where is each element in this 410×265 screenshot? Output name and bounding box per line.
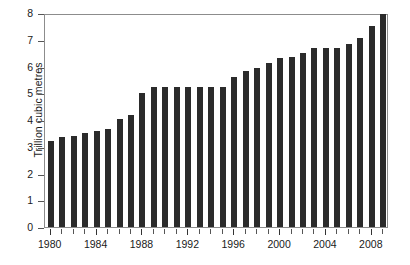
- bar: [380, 14, 386, 227]
- x-axis-tick-label: 1992: [165, 238, 209, 250]
- x-axis-tick: [245, 229, 246, 234]
- bar: [117, 119, 123, 227]
- y-axis-tick-label: 7: [3, 34, 33, 46]
- bar-chart-figure: Trillion cubic metres 012345678 19801984…: [0, 0, 410, 265]
- bar: [71, 136, 77, 227]
- x-axis-tick: [382, 229, 383, 234]
- y-axis-tick-label: 5: [3, 87, 33, 99]
- bar: [277, 58, 283, 227]
- bar: [311, 48, 317, 227]
- x-axis-tick-label: 2004: [303, 238, 347, 250]
- y-axis-tick-label: 4: [3, 114, 33, 126]
- bar: [231, 77, 237, 227]
- x-axis-tick: [130, 229, 131, 234]
- x-axis-tick: [61, 229, 62, 234]
- bar: [59, 137, 65, 227]
- y-axis-tick-label: 8: [3, 7, 33, 19]
- x-axis-tick: [210, 229, 211, 234]
- y-axis-tick-label: 2: [3, 168, 33, 180]
- bar: [48, 141, 54, 227]
- bar: [185, 87, 191, 227]
- x-axis-tick: [73, 229, 74, 234]
- bar: [266, 63, 272, 227]
- x-axis-major-tick: [279, 229, 280, 235]
- x-axis-tick: [119, 229, 120, 234]
- plot-frame: [44, 14, 388, 228]
- bar: [208, 87, 214, 227]
- x-axis-major-tick: [187, 229, 188, 235]
- x-axis-major-tick: [50, 229, 51, 235]
- bar: [357, 38, 363, 227]
- x-axis-major-tick: [96, 229, 97, 235]
- x-axis-tick-label: 1984: [74, 238, 118, 250]
- plot-area: [45, 15, 387, 227]
- bar: [346, 44, 352, 227]
- x-axis-tick: [199, 229, 200, 234]
- x-axis-tick: [359, 229, 360, 234]
- x-axis-major-tick: [371, 229, 372, 235]
- x-axis-tick: [336, 229, 337, 234]
- x-axis-major-tick: [141, 229, 142, 235]
- bar: [139, 93, 145, 227]
- x-axis-tick: [84, 229, 85, 234]
- bar: [243, 71, 249, 227]
- bar: [128, 115, 134, 227]
- bar: [300, 53, 306, 227]
- bar: [82, 133, 88, 227]
- bar: [94, 131, 100, 227]
- bar: [105, 129, 111, 227]
- x-axis-major-tick: [233, 229, 234, 235]
- x-axis-tick-label: 1980: [28, 238, 72, 250]
- y-axis-tick-label: 0: [3, 221, 33, 233]
- bar: [323, 48, 329, 227]
- bar: [369, 26, 375, 227]
- y-axis-tick-label: 1: [3, 194, 33, 206]
- x-axis-tick: [176, 229, 177, 234]
- x-axis-tick-label: 1996: [211, 238, 255, 250]
- bar: [197, 87, 203, 227]
- x-axis-tick-label: 2008: [349, 238, 393, 250]
- bar: [334, 48, 340, 227]
- y-axis-tick-label: 6: [3, 61, 33, 73]
- bar: [254, 68, 260, 227]
- bar: [162, 87, 168, 227]
- x-axis-tick: [302, 229, 303, 234]
- x-axis-tick: [256, 229, 257, 234]
- bar: [220, 87, 226, 227]
- bar: [174, 87, 180, 227]
- x-axis-tick-label: 2000: [257, 238, 301, 250]
- x-axis-tick: [313, 229, 314, 234]
- x-axis-tick-label: 1988: [119, 238, 163, 250]
- x-axis-tick: [164, 229, 165, 234]
- y-axis-tick: [38, 228, 44, 229]
- x-axis-tick: [268, 229, 269, 234]
- x-axis-tick: [107, 229, 108, 234]
- x-axis-tick: [348, 229, 349, 234]
- y-axis-tick-label: 3: [3, 141, 33, 153]
- x-axis-tick: [153, 229, 154, 234]
- x-axis-tick: [291, 229, 292, 234]
- bar: [289, 57, 295, 227]
- bar: [151, 87, 157, 227]
- x-axis-tick: [222, 229, 223, 234]
- x-axis-major-tick: [325, 229, 326, 235]
